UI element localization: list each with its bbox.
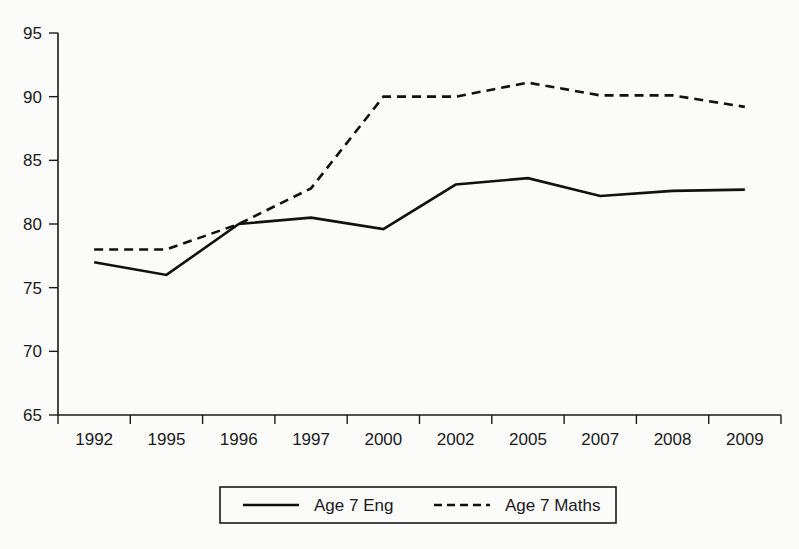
y-tick-label: 95 (23, 24, 42, 43)
chart-legend: Age 7 EngAge 7 Maths (220, 487, 616, 523)
chart-page: 65707580859095 1992199519961997200020022… (0, 0, 799, 549)
y-tick-label: 75 (23, 279, 42, 298)
y-tick-label: 65 (23, 406, 42, 425)
legend-label-2: Age 7 Maths (505, 496, 600, 515)
x-tick-label: 2007 (581, 430, 619, 449)
series-line-2 (94, 83, 745, 250)
x-tick-label: 1992 (75, 430, 113, 449)
line-chart: 65707580859095 1992199519961997200020022… (0, 0, 799, 549)
legend-label-1: Age 7 Eng (314, 496, 393, 515)
x-axis-ticks: 1992199519961997200020022005200720082009 (58, 415, 781, 449)
x-tick-label: 1996 (220, 430, 258, 449)
x-tick-label: 2002 (437, 430, 475, 449)
x-tick-label: 1997 (292, 430, 330, 449)
y-tick-label: 70 (23, 342, 42, 361)
x-tick-label: 2009 (726, 430, 764, 449)
x-tick-label: 2005 (509, 430, 547, 449)
x-tick-label: 2008 (654, 430, 692, 449)
y-tick-label: 80 (23, 215, 42, 234)
axes (58, 33, 781, 415)
series-line-1 (94, 178, 745, 275)
y-axis-ticks: 65707580859095 (23, 24, 58, 425)
x-tick-label: 1995 (148, 430, 186, 449)
y-tick-label: 85 (23, 151, 42, 170)
x-tick-label: 2000 (364, 430, 402, 449)
y-tick-label: 90 (23, 88, 42, 107)
series-layer (94, 83, 745, 275)
